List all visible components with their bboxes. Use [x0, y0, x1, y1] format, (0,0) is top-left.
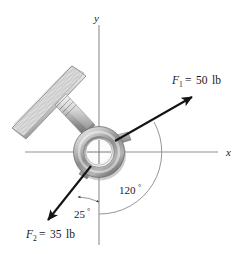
force-label-f1-units: lb — [212, 74, 221, 86]
x-axis-label: x — [225, 146, 231, 158]
angle-label-120: 120 ° — [119, 183, 141, 196]
force-label-f1-equals: = — [185, 74, 192, 86]
eyebolt-ring — [74, 127, 132, 181]
force-vector-f1 — [115, 97, 192, 141]
figure-container: y x F 1 = 50 lb F 2 = 35 lb 120 ° 25 ° — [0, 0, 241, 254]
wooden-plank — [12, 66, 86, 140]
force-label-f2-magnitude: 35 — [50, 228, 62, 240]
y-axis-label: y — [93, 12, 99, 24]
force-label-f1-magnitude: 50 — [196, 74, 208, 86]
angle-label-120-degree-symbol: ° — [138, 183, 141, 192]
force-label-f1-subscript: 1 — [179, 80, 183, 89]
angle-label-25: 25 ° — [74, 207, 90, 220]
angle-arc-25 — [78, 197, 99, 202]
force-diagram-svg: y x F 1 = 50 lb F 2 = 35 lb 120 ° 25 ° — [0, 0, 241, 254]
plank-top-face — [12, 66, 84, 136]
force-label-f2: F 2 = 35 lb — [25, 228, 75, 243]
angle-label-25-value: 25 — [74, 208, 86, 220]
force-label-f2-units: lb — [66, 228, 75, 240]
force-label-f2-equals: = — [39, 228, 46, 240]
force-label-f1: F 1 = 50 lb — [171, 74, 221, 89]
force-label-f2-subscript: 2 — [33, 234, 37, 243]
angle-label-25-degree-symbol: ° — [87, 207, 90, 216]
angle-label-120-value: 120 — [119, 184, 136, 196]
